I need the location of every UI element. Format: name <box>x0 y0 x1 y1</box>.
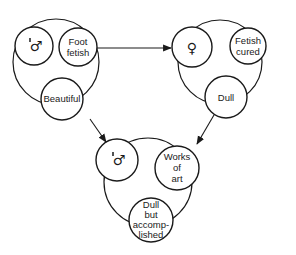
group-2: ♀ Fetish cured Dull <box>172 20 266 118</box>
male-with-mark-icon: ♂ <box>113 152 126 168</box>
node-label-line: art <box>171 173 182 184</box>
node-label-line: Works <box>164 151 191 162</box>
node-label-line: cured <box>236 46 260 57</box>
male-with-mark-icon: ♂ <box>30 38 43 54</box>
node-g1-beautiful: Beautiful <box>41 78 83 120</box>
node-label-line: Beautiful <box>44 93 81 104</box>
group-1: ♂ Foot fetish Beautiful <box>13 19 99 120</box>
edge-beautiful-to-male <box>90 119 106 142</box>
diagram-canvas: ♂ Foot fetish Beautiful ♀ Fetish cured D… <box>0 0 296 255</box>
node-label-line: Foot <box>68 36 87 47</box>
node-g3-works-of-art: Works of art <box>155 146 199 190</box>
node-label-line: Dull <box>218 92 234 103</box>
node-g1-male: ♂ <box>15 27 53 65</box>
node-g1-foot-fetish: Foot fetish <box>59 28 97 66</box>
group-3: ♂ Works of art Dull but accomp- lished <box>96 138 199 242</box>
female-icon: ♀ <box>187 40 197 56</box>
node-label-line: fetish <box>67 47 90 58</box>
node-label-line: lished <box>139 229 164 240</box>
node-g3-male: ♂ <box>96 139 138 181</box>
node-g2-fetish-cured: Fetish cured <box>230 28 266 64</box>
edge-dull-to-works-of-art <box>197 115 214 144</box>
node-label-line: of <box>173 162 181 173</box>
node-g3-dull-but-accomplished: Dull but accomp- lished <box>129 198 173 242</box>
node-g2-female: ♀ <box>172 27 212 67</box>
node-label-line: Fetish <box>235 35 261 46</box>
node-g2-dull: Dull <box>205 76 247 118</box>
